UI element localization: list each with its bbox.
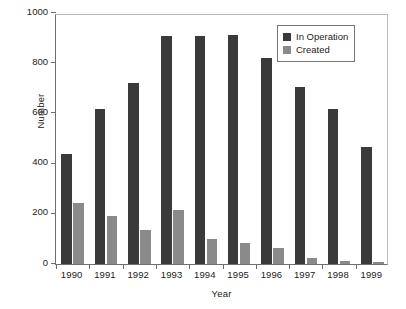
bar-in-operation-1998	[328, 109, 339, 264]
y-axis-tick-mark	[51, 213, 56, 214]
x-axis-tick-label: 1999	[351, 269, 391, 280]
bar-in-operation-1995	[228, 35, 239, 264]
y-axis-tick-label: 600	[32, 106, 48, 117]
legend-item: Created	[283, 44, 348, 56]
bar-in-operation-1994	[195, 36, 206, 264]
bar-created-1994	[207, 239, 218, 264]
bar-in-operation-1996	[261, 58, 272, 264]
legend-swatch-in-operation	[283, 33, 291, 41]
y-axis-tick: 200	[30, 213, 56, 214]
bar-created-1997	[307, 258, 318, 264]
chart-legend: In OperationCreated	[277, 25, 355, 62]
bar-created-1990	[73, 203, 84, 264]
y-axis-tick: 400	[30, 163, 56, 164]
x-axis-label: Year	[55, 288, 388, 299]
bar-in-operation-1997	[295, 87, 306, 264]
y-axis-tick: 0	[30, 263, 56, 264]
bar-in-operation-1991	[95, 109, 106, 264]
y-axis-tick: 800	[30, 62, 56, 63]
y-axis-tick-mark	[51, 112, 56, 113]
y-axis-tick-label: 1000	[27, 6, 48, 17]
y-axis-tick-mark	[51, 12, 56, 13]
bar-created-1996	[273, 248, 284, 264]
y-axis-tick-label: 800	[32, 56, 48, 67]
legend-swatch-created	[283, 46, 291, 54]
bar-created-1999	[373, 262, 384, 264]
bar-in-operation-1990	[61, 154, 72, 264]
legend-label: Created	[296, 45, 330, 55]
bar-created-1993	[173, 210, 184, 264]
y-axis-tick-mark	[51, 163, 56, 164]
y-axis-tick: 600	[30, 112, 56, 113]
bar-created-1991	[107, 216, 118, 264]
legend-item: In Operation	[283, 31, 348, 43]
bar-in-operation-1993	[161, 36, 172, 264]
y-axis-tick: 1000	[30, 12, 56, 13]
bar-chart-figure: Number 02004006008001000 199019911992199…	[0, 0, 406, 309]
bar-in-operation-1999	[361, 147, 372, 264]
legend-label: In Operation	[296, 32, 348, 42]
y-axis-tick-label: 400	[32, 156, 48, 167]
y-axis-tick-mark	[51, 62, 56, 63]
bar-created-1992	[140, 230, 151, 264]
bar-created-1998	[340, 261, 351, 264]
y-axis-tick-label: 0	[43, 257, 48, 268]
bar-created-1995	[240, 243, 251, 264]
y-axis-tick-label: 200	[32, 206, 48, 217]
bar-in-operation-1992	[128, 83, 139, 264]
